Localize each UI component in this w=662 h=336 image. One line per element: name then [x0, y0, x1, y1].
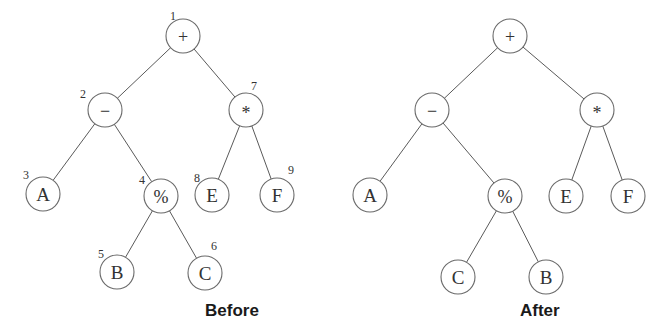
tree-node: B5: [98, 247, 134, 289]
edge-%-to-B: [513, 211, 539, 262]
tree-node: B: [529, 260, 563, 294]
edge-*-to-E: [218, 126, 239, 179]
tree-node: *: [580, 93, 614, 127]
node-index-label: 9: [288, 163, 294, 177]
before-caption: Before: [205, 301, 259, 320]
edge-*-to-F: [252, 126, 271, 179]
before-tree-nodes: +1−2A3%4B5C6*7E8F9: [23, 9, 294, 290]
node-label: C: [452, 267, 465, 288]
tree-node: −: [415, 93, 449, 127]
node-label: F: [272, 185, 283, 206]
node-label: +: [178, 27, 188, 47]
before-tree-edges: [53, 48, 271, 259]
expression-tree-diagram: +1−2A3%4B5C6*7E8F9 Before +−A%CB*EF Afte…: [0, 0, 662, 336]
node-label: −: [100, 101, 110, 121]
tree-node: C6: [188, 239, 222, 290]
node-index-label: 5: [98, 247, 104, 261]
tree-node: F: [611, 179, 645, 213]
edge-+-to-*: [523, 47, 584, 99]
tree-node: A: [353, 178, 387, 212]
tree-node: C: [441, 260, 475, 294]
edge-−-to-%: [443, 123, 494, 183]
after-tree: +−A%CB*EF After: [353, 19, 645, 320]
edge-−-to-A: [53, 124, 95, 181]
edge-*-to-E: [572, 126, 591, 180]
tree-node: *7: [229, 79, 263, 127]
node-index-label: 7: [251, 79, 257, 93]
tree-node: E8: [194, 171, 229, 212]
edge-+-to-−: [117, 48, 170, 99]
tree-node: %4: [139, 173, 178, 213]
node-label: F: [623, 186, 634, 207]
before-tree: +1−2A3%4B5C6*7E8F9 Before: [23, 9, 294, 320]
tree-node: +: [493, 19, 527, 53]
node-index-label: 1: [170, 9, 176, 23]
after-caption: After: [520, 301, 560, 320]
node-label: E: [206, 185, 218, 206]
after-tree-nodes: +−A%CB*EF: [353, 19, 645, 294]
edge-*-to-F: [603, 126, 622, 180]
node-label: C: [199, 263, 212, 284]
edge-%-to-C: [467, 211, 497, 263]
tree-node: +1: [166, 9, 200, 53]
node-label: −: [427, 101, 437, 121]
node-label: %: [498, 187, 513, 207]
edge-+-to-−: [444, 48, 497, 99]
node-label: B: [540, 267, 553, 288]
node-label: B: [111, 262, 124, 283]
edge-%-to-B: [126, 211, 153, 258]
edge-+-to-*: [194, 49, 235, 97]
node-label: %: [154, 187, 169, 207]
node-label: *: [242, 103, 251, 123]
after-tree-edges: [380, 47, 622, 262]
tree-node: F9: [260, 163, 294, 212]
edge-%-to-C: [169, 211, 196, 258]
node-label: A: [363, 185, 377, 206]
node-index-label: 2: [80, 87, 86, 101]
node-index-label: 4: [139, 173, 145, 187]
node-label: E: [560, 186, 572, 207]
node-index-label: 6: [211, 239, 217, 253]
tree-node: A3: [23, 168, 60, 211]
node-label: A: [36, 184, 50, 205]
tree-node: E: [549, 179, 583, 213]
node-index-label: 8: [194, 171, 200, 185]
edge-−-to-%: [114, 124, 151, 182]
node-label: *: [593, 103, 602, 123]
tree-node: −2: [80, 87, 122, 127]
edge-−-to-A: [380, 124, 422, 182]
node-label: +: [505, 27, 515, 47]
tree-node: %: [488, 179, 522, 213]
node-index-label: 3: [23, 168, 29, 182]
